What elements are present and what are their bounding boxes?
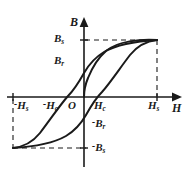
- h-coercivity-label: Hc: [94, 100, 106, 113]
- b-axis-arrow: [80, 17, 89, 27]
- h-axis-label: H: [172, 102, 181, 114]
- h-saturation-negative-subscript: s: [26, 105, 29, 113]
- b-remanence-label: Br: [54, 55, 64, 68]
- h-saturation-base: H: [148, 99, 157, 111]
- b-remanence-subscript: r: [61, 60, 64, 68]
- hysteresis-curves: [13, 40, 157, 148]
- b-saturation-negative-label: -Bs: [92, 142, 105, 155]
- h-coercivity-subscript: c: [103, 105, 106, 113]
- b-remanence-negative-subscript: r: [102, 123, 105, 131]
- h-saturation-negative-label: -Hs: [14, 100, 29, 113]
- h-saturation-label: Hs: [148, 100, 159, 113]
- h-coercivity-negative-base: H: [46, 99, 55, 111]
- b-saturation-negative-subscript: s: [102, 147, 105, 155]
- b-saturation-subscript: s: [61, 38, 64, 46]
- b-remanence-negative-label: -Br: [92, 118, 105, 131]
- b-axis-label: B: [70, 16, 78, 28]
- h-coercivity-base: H: [94, 99, 103, 111]
- origin-label: O: [68, 100, 76, 111]
- h-saturation-negative-base: H: [17, 99, 26, 111]
- h-coercivity-negative-label: -Hc: [43, 100, 58, 113]
- b-saturation-label: Bs: [54, 33, 64, 46]
- hysteresis-loop-figure: B H O Bs Br -Br -Bs Hc -Hc Hs -Hs: [0, 0, 188, 173]
- h-saturation-subscript: s: [157, 105, 160, 113]
- h-coercivity-negative-subscript: c: [55, 105, 58, 113]
